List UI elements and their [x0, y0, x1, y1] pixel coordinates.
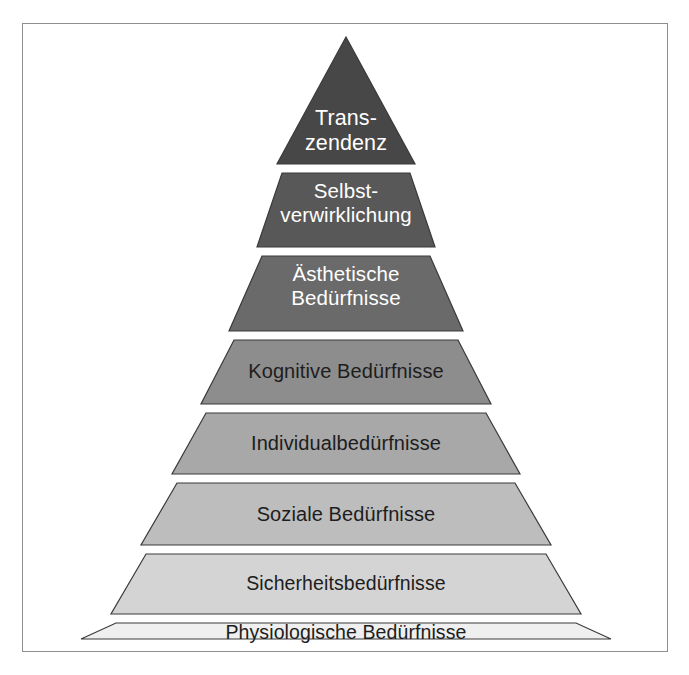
- pyramid-tier-8-shape[interactable]: [81, 623, 611, 639]
- pyramid-diagram: Trans- zendenz Selbst- verwirklichung Äs…: [23, 24, 669, 653]
- pyramid-shapes: [23, 24, 669, 653]
- pyramid-tier-4-shape[interactable]: [201, 340, 491, 404]
- pyramid-tier-2-shape[interactable]: [257, 173, 435, 247]
- pyramid-tier-3-shape[interactable]: [229, 256, 463, 331]
- pyramid-tier-1-shape[interactable]: [277, 37, 415, 164]
- pyramid-tier-7-shape[interactable]: [111, 554, 581, 614]
- pyramid-tier-5-shape[interactable]: [172, 413, 520, 474]
- figure-frame: Trans- zendenz Selbst- verwirklichung Äs…: [22, 23, 668, 652]
- pyramid-tier-6-shape[interactable]: [141, 483, 551, 545]
- diagram-root: Trans- zendenz Selbst- verwirklichung Äs…: [0, 0, 689, 675]
